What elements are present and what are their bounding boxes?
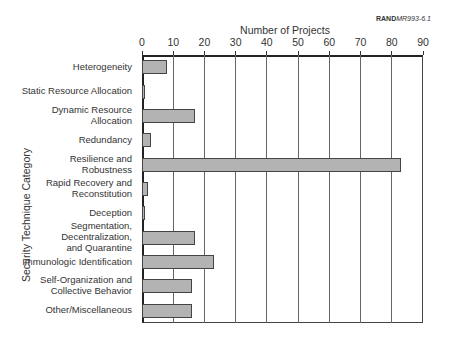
bar: [142, 231, 195, 245]
category-label: Segmentation,Decentralization,and Quaran…: [0, 220, 132, 253]
x-tick-label: 50: [283, 36, 313, 48]
x-tick: [173, 51, 174, 55]
bar: [142, 133, 151, 147]
gridline: [329, 55, 330, 323]
gridline: [266, 55, 267, 323]
category-label: Dynamic ResourceAllocation: [0, 104, 132, 126]
bar: [142, 109, 195, 123]
gridline: [360, 55, 361, 323]
x-tick: [235, 51, 236, 55]
bar: [142, 158, 401, 172]
category-label: Deception: [0, 207, 132, 218]
x-tick-label: 70: [346, 36, 376, 48]
category-label: Redundancy: [0, 134, 132, 145]
bar: [142, 182, 148, 196]
bar: [142, 206, 145, 220]
x-tick: [329, 51, 330, 55]
x-tick-label: 40: [252, 36, 282, 48]
bar: [142, 279, 192, 293]
x-tick-label: 20: [189, 36, 219, 48]
gridline: [204, 55, 205, 323]
x-tick: [391, 51, 392, 55]
category-label: Heterogeneity: [0, 61, 132, 72]
category-label: Rapid Recovery andReconstitution: [0, 177, 132, 199]
category-label: Immunologic Identification: [0, 256, 132, 267]
x-tick: [423, 51, 424, 55]
credit-ref: MR993-6.1: [396, 15, 431, 22]
x-tick-label: 10: [158, 36, 188, 48]
category-label: Other/Miscellaneous: [0, 304, 132, 315]
plot-area: 0102030405060708090: [142, 55, 423, 323]
x-axis-title: Number of Projects: [200, 24, 370, 36]
category-label: Self-Organization andCollective Behavior: [0, 274, 132, 296]
gridline: [298, 55, 299, 323]
category-label: Resilience andRobustness: [0, 153, 132, 175]
x-tick: [266, 51, 267, 55]
x-tick: [142, 51, 143, 55]
gridline: [235, 55, 236, 323]
gridline: [391, 55, 392, 323]
x-tick-label: 0: [127, 36, 157, 48]
category-label: Static Resource Allocation: [0, 85, 132, 96]
x-tick-label: 30: [221, 36, 251, 48]
x-tick-label: 90: [408, 36, 438, 48]
bar: [142, 60, 167, 74]
x-tick-label: 60: [314, 36, 344, 48]
x-tick-label: 80: [377, 36, 407, 48]
x-tick: [298, 51, 299, 55]
x-tick: [360, 51, 361, 55]
figure-credit: RANDMR993-6.1: [376, 15, 431, 22]
bar: [142, 304, 192, 318]
x-tick: [204, 51, 205, 55]
bar: [142, 255, 214, 269]
bar: [142, 85, 145, 99]
credit-org: RAND: [376, 15, 396, 22]
